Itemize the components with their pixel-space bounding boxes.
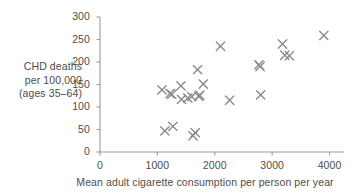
data-point-marker [169, 122, 177, 130]
data-point-marker [285, 52, 293, 60]
data-point-marker [193, 65, 201, 73]
data-point-marker [256, 91, 264, 99]
data-point-marker [158, 86, 166, 94]
data-point-marker [177, 82, 185, 90]
plot-area [0, 0, 354, 193]
scatter-chart-figure: CHD deaths per 100,000 (ages 35–64) Mean… [0, 0, 354, 193]
data-point-marker [225, 96, 233, 104]
data-point-marker [278, 40, 286, 48]
data-point-marker [191, 128, 199, 136]
data-point-marker [199, 80, 207, 88]
data-point-marker [161, 127, 169, 135]
data-point-marker [320, 31, 328, 39]
data-point-marker [216, 42, 224, 50]
